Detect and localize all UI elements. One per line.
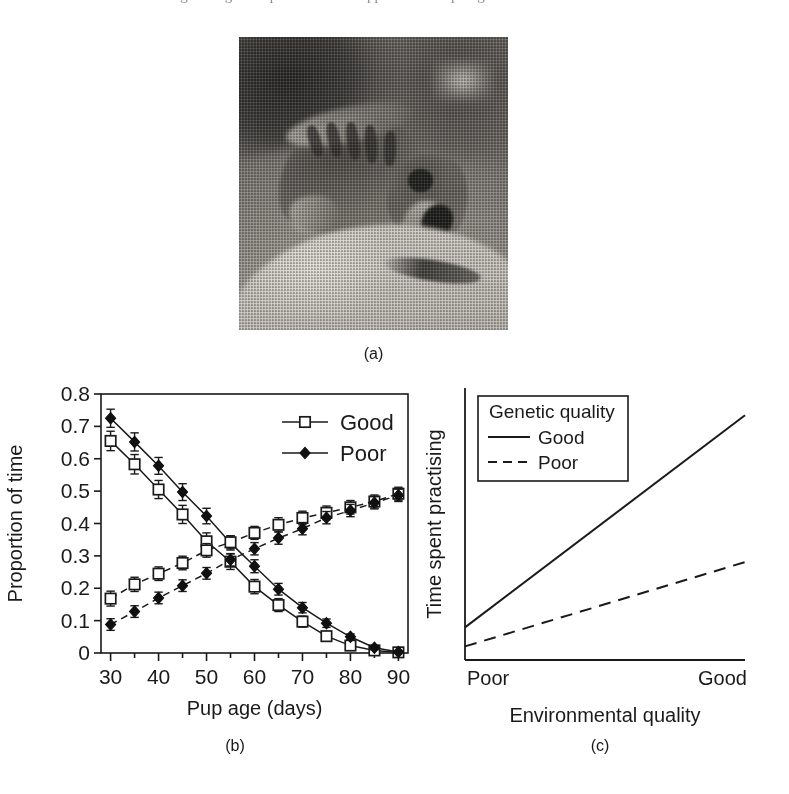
marker-open-square [297,513,307,523]
marker-open-square [273,600,283,610]
x-axis-title: Pup age (days) [187,697,323,719]
x-tick-label: 90 [387,665,410,688]
x-axis-title: Environmental quality [509,704,700,726]
panel-a-photograph [239,37,508,330]
cropped-caption-sliver: the original figure caption line is crop… [0,0,789,14]
y-axis-title: Time spent practising [423,429,445,618]
y-tick-label: 0.4 [61,512,91,535]
y-tick-label: 0.1 [61,609,90,632]
marker-filled-diamond [178,580,188,591]
marker-open-square [105,436,115,446]
y-tick-label: 0.5 [61,479,90,502]
marker-filled-diamond [297,602,307,613]
y-tick-label: 0.8 [61,382,90,405]
marker-open-square [201,545,211,555]
marker-open-square [297,616,307,626]
series-line-Poor [465,562,745,646]
marker-open-square [321,631,331,641]
x-tick-label: 50 [195,665,218,688]
x-tick-labels: 30405060708090 [99,665,410,688]
marker-open-square [177,558,187,568]
marker-open-square [225,537,235,547]
marker-open-square [273,520,283,530]
marker-filled-diamond [202,568,212,579]
marker-filled-diamond [154,592,164,603]
legend-label: Poor [340,441,386,466]
marker-open-square [249,581,259,591]
marker-open-square [300,417,310,427]
legend-label: Good [340,410,394,435]
cropped-caption-text: the original figure caption line is crop… [140,0,492,4]
panel-c-caption: (c) [460,737,740,755]
marker-open-square [153,484,163,494]
y-tick-labels: 00.10.20.30.40.50.60.70.8 [61,382,91,664]
panel-b-chart: 00.10.20.30.40.50.60.70.8 30405060708090… [0,370,420,730]
y-tick-label: 0.3 [61,544,90,567]
marker-filled-diamond [250,543,260,554]
y-tick-label: 0.6 [61,447,90,470]
y-tick-label: 0 [78,641,90,664]
x-tick-label-good: Good [698,667,747,689]
legend-title: Genetic quality [489,401,615,422]
marker-filled-diamond [130,606,140,617]
x-tick-label: 60 [243,665,266,688]
x-tick-label-poor: Poor [467,667,510,689]
y-axis-title: Proportion of time [4,445,26,603]
marker-open-square [105,593,115,603]
genotype-environment-interaction-chart: Genetic qualityGoodPoor PoorGoodEnvironm… [415,370,789,730]
marker-open-square [177,509,187,519]
meerkat-pup-photo [239,37,508,330]
x-tick-label: 40 [147,665,170,688]
marker-filled-diamond [273,532,283,543]
marker-filled-diamond [106,619,116,630]
x-tick-label: 70 [291,665,314,688]
panel-a-caption: (a) [239,345,508,363]
marker-open-square [249,528,259,538]
y-tick-label: 0.2 [61,576,90,599]
x-tick-label: 30 [99,665,122,688]
panel-b-caption: (b) [60,737,410,755]
x-tick-label: 80 [339,665,362,688]
legend-label: Good [538,427,584,448]
chart-legend[interactable]: Genetic qualityGoodPoor [478,396,628,481]
marker-open-square [153,568,163,578]
photo-halftone-light [239,37,508,330]
marker-filled-diamond [300,447,310,458]
legend-label: Poor [538,452,579,473]
chart-legend[interactable]: GoodPoor [282,410,394,466]
marker-open-square [129,579,139,589]
y-tick-label: 0.7 [61,414,90,437]
pup-age-proportion-chart: 00.10.20.30.40.50.60.70.8 30405060708090… [0,370,420,730]
marker-open-square [129,459,139,469]
panel-c-chart: Genetic qualityGoodPoor PoorGoodEnvironm… [415,370,789,730]
